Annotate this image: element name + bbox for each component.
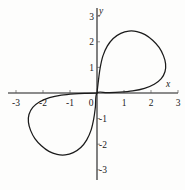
x-tick-label: -2 [39,98,47,108]
x-tick-label: 1 [122,98,127,108]
y-tick-label: 3 [89,12,94,22]
x-tick-label: 2 [149,98,154,108]
x-axis-name-label: x [165,79,171,89]
y-tick-label: -3 [99,165,107,175]
curve-figure: -3-2-10123 -3-2-1123 x y [0,0,185,190]
y-tick-label: 1 [89,63,94,73]
x-tick-label: 3 [176,98,181,108]
y-tick-label: -1 [99,114,107,124]
y-axis-name-label: y [98,6,104,16]
y-tick-label: 2 [89,37,94,47]
y-tick-label: -2 [99,140,107,150]
plot-canvas: -3-2-10123 -3-2-1123 x y [0,0,185,190]
x-tick-label: 0 [89,98,94,108]
x-tick-label: -1 [66,98,74,108]
x-tick-label: -3 [12,98,20,108]
axes-group [8,8,178,180]
